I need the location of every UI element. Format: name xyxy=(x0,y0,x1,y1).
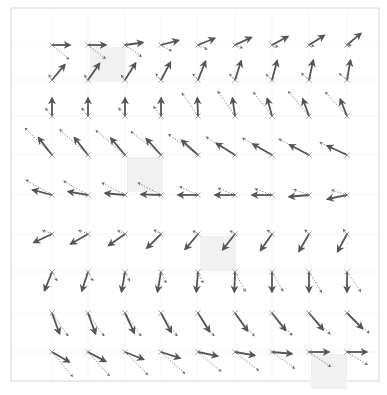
solid-arrow xyxy=(197,98,198,116)
solid-arrow xyxy=(141,194,161,195)
solid-arrow xyxy=(234,272,235,292)
highlight-cell xyxy=(90,47,126,82)
highlight-cell xyxy=(200,236,236,271)
highlight-cell xyxy=(311,354,347,389)
quiver-plot xyxy=(0,0,387,395)
